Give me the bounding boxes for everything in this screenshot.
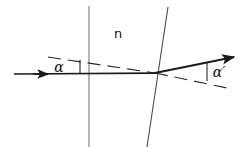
medium-index-label: n — [114, 26, 122, 41]
angle-in-label: α — [54, 59, 64, 75]
diagram-canvas: n α α′ — [0, 0, 246, 147]
refraction-diagram: n α α′ — [0, 0, 246, 147]
angle-out-label: α′ — [213, 64, 226, 80]
